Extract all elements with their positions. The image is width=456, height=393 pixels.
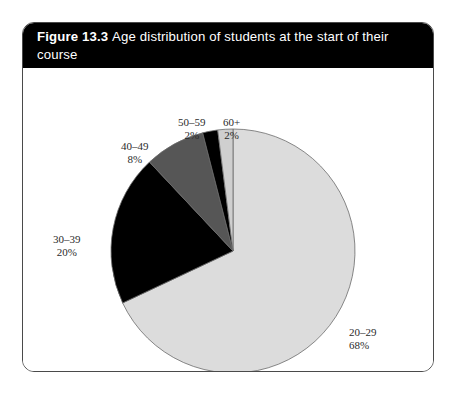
pie-label-40-49-percent: 8% bbox=[121, 153, 149, 166]
pie-label-40-49-category: 40–49 bbox=[121, 140, 149, 153]
pie-label-50-59-category: 50–59 bbox=[178, 116, 206, 129]
pie-label-60-plus-percent: 2% bbox=[223, 129, 240, 142]
pie-label-20-29-category: 20–29 bbox=[349, 326, 377, 339]
pie-label-50-59: 50–59 2% bbox=[178, 116, 206, 141]
pie-label-60-plus: 60+ 2% bbox=[223, 116, 240, 141]
pie-label-20-29-percent: 68% bbox=[349, 339, 377, 352]
pie-slice-group bbox=[111, 129, 355, 372]
pie-label-50-59-percent: 2% bbox=[178, 129, 206, 142]
pie-label-30-39-percent: 20% bbox=[53, 246, 81, 259]
pie-label-60-plus-category: 60+ bbox=[223, 116, 240, 129]
pie-chart-plot-area: 20–29 68% 30–39 20% 40–49 8% 50–59 2% 60… bbox=[23, 68, 433, 372]
figure-caption-header: Figure 13.3 Age distribution of students… bbox=[23, 23, 433, 68]
pie-label-30-39: 30–39 20% bbox=[53, 233, 81, 258]
pie-label-20-29: 20–29 68% bbox=[349, 326, 377, 351]
pie-label-30-39-category: 30–39 bbox=[53, 233, 81, 246]
figure-number: Figure 13.3 bbox=[37, 29, 108, 44]
pie-label-40-49: 40–49 8% bbox=[121, 140, 149, 165]
figure-card: Figure 13.3 Age distribution of students… bbox=[22, 22, 434, 372]
